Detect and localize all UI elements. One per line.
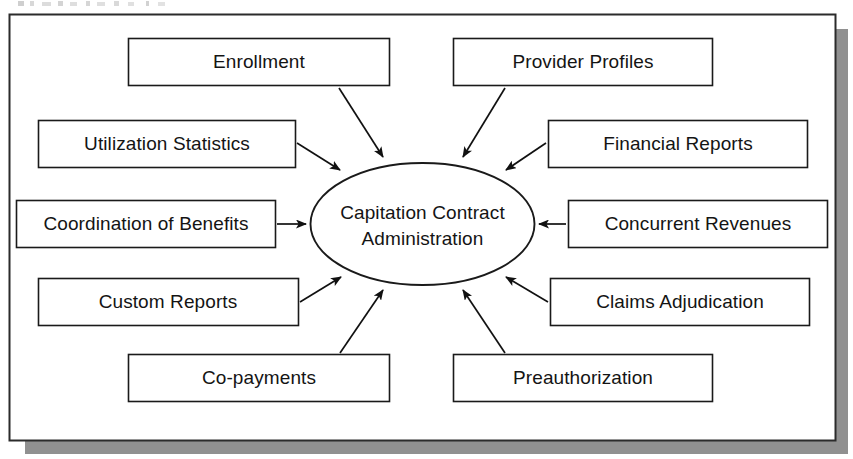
hub-label-line-2: Administration	[362, 228, 484, 249]
node-label: Concurrent Revenues	[605, 213, 792, 234]
node-label: Preauthorization	[513, 367, 653, 388]
node-label: Coordination of Benefits	[43, 213, 248, 234]
hub-label-line-1: Capitation Contract	[340, 202, 505, 223]
node-claims-adjudication[interactable]: Claims Adjudication	[551, 279, 810, 326]
node-concurrent-revenues[interactable]: Concurrent Revenues	[569, 201, 828, 248]
node-co-payments[interactable]: Co-payments	[129, 355, 390, 402]
node-label: Provider Profiles	[512, 51, 653, 72]
diagram-canvas: Capitation Contract Administration Enrol…	[0, 0, 853, 459]
hub-node[interactable]: Capitation Contract Administration	[311, 163, 535, 285]
node-financial-reports[interactable]: Financial Reports	[549, 121, 808, 168]
node-custom-reports[interactable]: Custom Reports	[39, 279, 299, 326]
node-provider-profiles[interactable]: Provider Profiles	[454, 39, 713, 86]
node-label: Co-payments	[202, 367, 316, 388]
node-coordination-of-benefits[interactable]: Coordination of Benefits	[17, 201, 276, 248]
caption-fragment	[18, 1, 165, 6]
node-label: Utilization Statistics	[84, 133, 250, 154]
hub-ellipse	[311, 163, 535, 285]
node-label: Financial Reports	[603, 133, 753, 154]
node-utilization-statistics[interactable]: Utilization Statistics	[39, 121, 296, 168]
node-label: Claims Adjudication	[596, 291, 764, 312]
diagram-root: Capitation Contract Administration Enrol…	[0, 0, 853, 459]
node-enrollment[interactable]: Enrollment	[129, 39, 390, 86]
node-preauthorization[interactable]: Preauthorization	[454, 355, 713, 402]
node-label: Custom Reports	[99, 291, 238, 312]
node-label: Enrollment	[213, 51, 305, 72]
